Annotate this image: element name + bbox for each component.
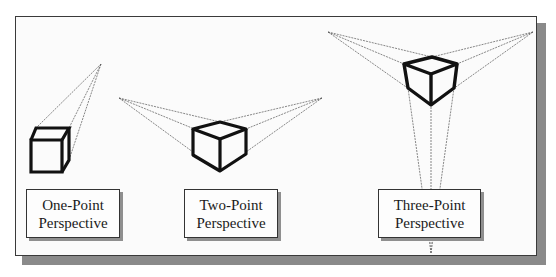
two-point-diagram <box>119 98 322 171</box>
label-line1: Two-Point <box>199 196 262 214</box>
one-point-cube <box>31 128 69 172</box>
two-point-cube <box>193 122 246 171</box>
label-three-point: Three-Point Perspective <box>378 189 481 238</box>
label-one-point: One-Point Perspective <box>26 189 120 238</box>
label-line2: Perspective <box>196 214 265 232</box>
label-two-point: Two-Point Perspective <box>184 189 278 238</box>
label-line1: Three-Point <box>394 196 466 214</box>
label-line1: One-Point <box>42 196 104 214</box>
three-point-cube <box>404 57 457 105</box>
label-line2: Perspective <box>38 214 107 232</box>
label-line2: Perspective <box>395 214 464 232</box>
one-point-diagram <box>31 64 101 172</box>
